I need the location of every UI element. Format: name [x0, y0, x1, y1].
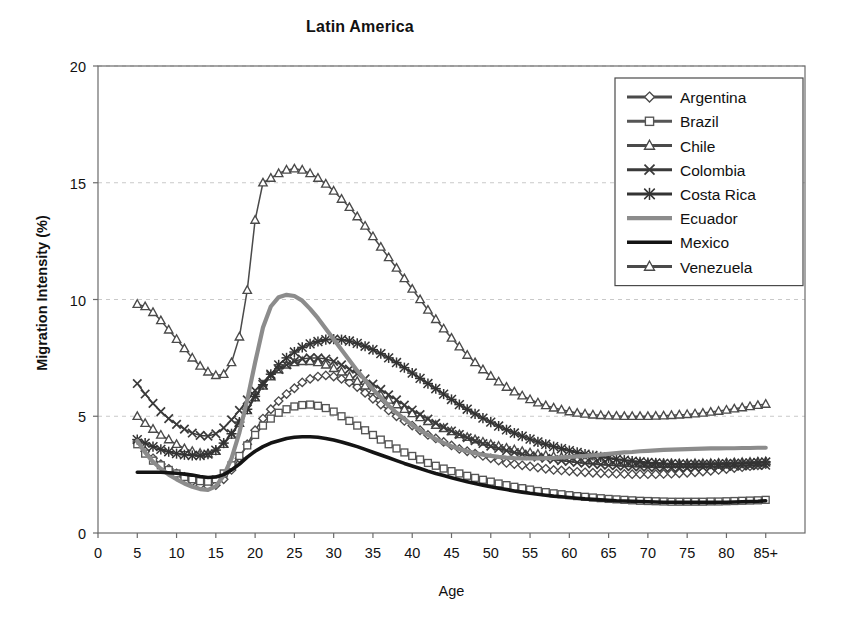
data-point-marker — [172, 420, 180, 428]
x-tick-label: 55 — [522, 545, 538, 561]
legend-box — [615, 78, 803, 286]
data-point-marker — [133, 412, 141, 420]
data-point-marker — [212, 430, 220, 438]
data-point-marker — [362, 427, 369, 434]
data-point-marker — [258, 380, 268, 390]
legend-label: Venezuela — [680, 259, 753, 276]
data-point-marker — [573, 468, 581, 476]
x-tick-label: 40 — [404, 545, 420, 561]
x-tick-label: 5 — [133, 545, 141, 561]
data-point-marker — [226, 429, 236, 439]
data-point-marker — [440, 465, 447, 472]
y-tick-label: 10 — [70, 293, 86, 309]
data-point-marker — [446, 394, 456, 404]
data-point-marker — [518, 461, 526, 469]
data-point-marker — [762, 400, 770, 408]
data-point-marker — [165, 414, 173, 422]
data-point-marker — [407, 368, 417, 378]
y-tick-label: 15 — [70, 176, 86, 192]
data-point-marker — [401, 449, 408, 456]
x-tick-label: 0 — [94, 545, 102, 561]
data-point-marker — [431, 384, 441, 394]
chart-title: Latin America — [0, 18, 720, 36]
data-point-marker — [157, 431, 165, 439]
data-point-marker — [589, 469, 597, 477]
data-point-marker — [377, 436, 384, 443]
data-point-marker — [171, 449, 181, 459]
data-point-marker — [472, 474, 479, 481]
data-point-marker — [417, 456, 424, 463]
data-point-marker — [157, 407, 165, 415]
data-point-marker — [439, 389, 449, 399]
data-point-marker — [432, 462, 439, 469]
data-point-marker — [565, 467, 573, 475]
data-point-marker — [305, 339, 315, 349]
data-point-marker — [133, 300, 141, 308]
data-point-marker — [133, 379, 141, 387]
data-point-marker — [542, 465, 550, 473]
data-point-marker — [581, 468, 589, 476]
data-point-marker — [180, 425, 188, 433]
data-point-marker — [345, 372, 353, 380]
data-point-marker — [487, 478, 494, 485]
chart-container: Latin America Migration Intensity (%) Ag… — [0, 0, 848, 619]
data-point-marker — [479, 476, 486, 483]
data-point-marker — [259, 178, 267, 186]
data-point-marker — [283, 406, 290, 413]
data-point-marker — [172, 440, 180, 448]
data-point-marker — [761, 457, 771, 467]
data-point-marker — [384, 353, 394, 363]
data-point-marker — [415, 373, 425, 383]
x-tick-label: 35 — [365, 545, 381, 561]
data-point-marker — [541, 439, 551, 449]
y-tick-label: 5 — [78, 409, 86, 425]
data-point-marker — [354, 422, 361, 429]
data-point-marker — [556, 444, 566, 454]
data-point-marker — [204, 367, 212, 375]
data-point-marker — [251, 216, 259, 224]
data-point-marker — [291, 403, 298, 410]
x-tick-label: 45 — [443, 545, 459, 561]
data-point-marker — [564, 446, 574, 456]
data-point-marker — [243, 286, 251, 294]
x-tick-label: 80 — [718, 545, 734, 561]
x-tick-label: 70 — [640, 545, 656, 561]
x-tick-label: 75 — [679, 545, 695, 561]
data-point-marker — [281, 353, 291, 363]
x-tick-label: 15 — [208, 545, 224, 561]
data-point-marker — [643, 188, 655, 200]
data-point-marker — [409, 453, 416, 460]
data-point-marker — [533, 437, 543, 447]
data-point-marker — [156, 444, 166, 454]
legend-label: Ecuador — [680, 210, 738, 227]
data-point-marker — [219, 424, 227, 432]
data-point-marker — [353, 377, 361, 385]
data-point-marker — [236, 453, 243, 460]
data-point-marker — [344, 336, 354, 346]
data-point-marker — [289, 347, 299, 357]
x-tick-label: 60 — [561, 545, 577, 561]
legend-label: Chile — [680, 138, 715, 155]
y-tick-label: 0 — [78, 526, 86, 542]
x-tick-label: 50 — [483, 545, 499, 561]
data-point-marker — [495, 480, 502, 487]
data-point-marker — [275, 409, 282, 416]
data-point-marker — [195, 450, 205, 460]
data-point-marker — [188, 429, 196, 437]
data-point-marker — [385, 441, 392, 448]
x-tick-label: 25 — [286, 545, 302, 561]
data-point-marker — [399, 363, 409, 373]
legend-label: Argentina — [680, 89, 747, 106]
data-point-marker — [464, 472, 471, 479]
data-point-marker — [149, 399, 157, 407]
data-point-marker — [235, 332, 243, 340]
data-point-marker — [227, 358, 235, 366]
chart-legend: ArgentinaBrazilChileColombiaCosta RicaEc… — [615, 78, 803, 286]
data-point-marker — [557, 466, 565, 474]
data-point-marker — [252, 431, 259, 438]
legend-label: Mexico — [680, 234, 729, 251]
y-tick-label: 20 — [70, 59, 86, 75]
data-point-marker — [141, 390, 149, 398]
data-point-marker — [329, 372, 337, 380]
data-point-marker — [645, 117, 653, 125]
